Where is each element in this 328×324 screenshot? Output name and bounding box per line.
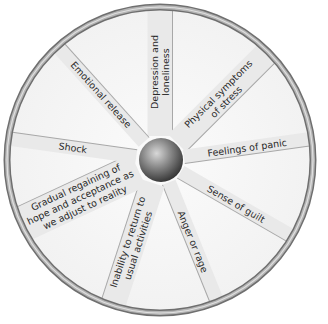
grief-wheel-diagram: Depression andlonelinessPhysical symptom… xyxy=(0,0,328,324)
center-hub xyxy=(139,138,183,182)
spoke-label-line: loneliness xyxy=(160,48,171,95)
spoke-label-line: Depression and xyxy=(149,35,160,109)
